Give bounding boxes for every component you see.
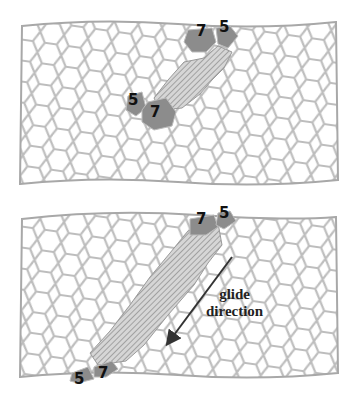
defect-label-7: 7	[98, 366, 108, 381]
cropped-caption	[8, 394, 350, 404]
nanotube-panel-bottom	[18, 205, 340, 385]
defect-label-5: 5	[128, 93, 138, 108]
defect-label-7: 7	[150, 105, 160, 120]
nanotube-panel-top	[18, 18, 340, 188]
defect-label-7: 7	[196, 212, 206, 227]
glide-label-line1: glide	[206, 286, 263, 303]
defect-label-5: 5	[74, 372, 84, 387]
defect-label-7: 7	[196, 24, 206, 39]
nanotube-lattice-top	[18, 18, 340, 188]
defect-label-5: 5	[219, 206, 229, 221]
defect-label-5: 5	[219, 20, 229, 35]
glide-direction-label: glide direction	[206, 286, 263, 319]
glide-label-line2: direction	[206, 303, 263, 320]
nanotube-lattice-bottom	[18, 205, 340, 385]
